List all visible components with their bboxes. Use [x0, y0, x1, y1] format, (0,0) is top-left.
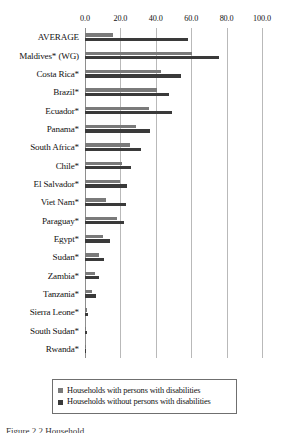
- x-axis-tick-3: 60.0: [184, 14, 198, 23]
- y-axis-label-14: Tanzania*: [43, 289, 79, 299]
- bar-with-disabilities: [85, 33, 113, 36]
- y-axis-label-10: Paraguay*: [42, 216, 79, 226]
- y-axis-label-11: Egypt*: [54, 234, 79, 244]
- bar-group: [85, 138, 262, 156]
- bar-without-disabilities: [85, 221, 124, 224]
- bar-without-disabilities: [85, 56, 219, 59]
- bar-without-disabilities: [85, 294, 96, 297]
- bar-group: [85, 120, 262, 138]
- figure-caption: Figure 2.2 Household...: [6, 426, 289, 433]
- bar-group: [85, 321, 262, 339]
- bar-group: [85, 101, 262, 119]
- chart-legend: Households with persons with disabilitie…: [52, 379, 237, 414]
- bar-without-disabilities: [85, 239, 110, 242]
- bar-with-disabilities: [85, 327, 86, 330]
- y-axis-label-9: Viet Nam*: [41, 197, 79, 207]
- bar-without-disabilities: [85, 349, 86, 352]
- bar-with-disabilities: [85, 143, 130, 146]
- bar-with-disabilities: [85, 308, 87, 311]
- x-axis-tick-5: 100.0: [253, 14, 271, 23]
- legend-label: Households with persons with disabilitie…: [67, 386, 200, 396]
- bar-group: [85, 193, 262, 211]
- bar-with-disabilities: [85, 272, 95, 275]
- bar-group: [85, 303, 262, 321]
- bar-without-disabilities: [85, 166, 131, 169]
- legend-swatch-icon: [58, 400, 63, 405]
- bar-with-disabilities: [85, 125, 136, 128]
- bar-with-disabilities: [85, 198, 106, 201]
- y-axis-label-3: Brazil*: [53, 87, 79, 97]
- y-axis-label-6: South Africa*: [30, 142, 79, 152]
- bar-without-disabilities: [85, 129, 150, 132]
- y-axis-label-12: Sudan*: [53, 252, 79, 262]
- bar-group: [85, 175, 262, 193]
- y-axis-label-7: Chile*: [56, 161, 79, 171]
- x-axis-tick-4: 80.0: [220, 14, 234, 23]
- bar-with-disabilities: [85, 107, 149, 110]
- bar-with-disabilities: [85, 345, 86, 348]
- bar-without-disabilities: [85, 111, 172, 114]
- legend-label: Households without persons with disabili…: [67, 397, 211, 407]
- bar-group: [85, 156, 262, 174]
- x-axis-tick-0: 0.0: [80, 14, 90, 23]
- bar-without-disabilities: [85, 148, 141, 151]
- bar-with-disabilities: [85, 52, 192, 55]
- x-axis-tick-2: 40.0: [149, 14, 163, 23]
- bar-group: [85, 28, 262, 46]
- y-axis-label-8: El Salvador*: [34, 179, 79, 189]
- figure-container: 0.020.040.060.080.0100.0 AVERAGEMaldives…: [0, 0, 289, 433]
- y-axis-label-0: AVERAGE: [38, 32, 79, 42]
- bar-group: [85, 248, 262, 266]
- bar-with-disabilities: [85, 290, 92, 293]
- bar-group: [85, 46, 262, 64]
- bar-group: [85, 65, 262, 83]
- bar-without-disabilities: [85, 313, 88, 316]
- bar-without-disabilities: [85, 93, 169, 96]
- bar-with-disabilities: [85, 162, 122, 165]
- bar-without-disabilities: [85, 276, 99, 279]
- bar-without-disabilities: [85, 184, 127, 187]
- y-axis-label-1: Maldives* (WG): [19, 51, 79, 61]
- gridline-5: [262, 28, 263, 358]
- bar-without-disabilities: [85, 203, 126, 206]
- bar-rows: [85, 28, 262, 358]
- bar-without-disabilities: [85, 74, 181, 77]
- y-axis-label-15: Sierra Leone*: [30, 307, 79, 317]
- y-axis-label-16: South Sudan*: [30, 326, 79, 336]
- bar-with-disabilities: [85, 180, 120, 183]
- plot-area: [85, 28, 262, 358]
- legend-item-0[interactable]: Households with persons with disabilitie…: [58, 386, 231, 396]
- x-axis-tick-1: 20.0: [113, 14, 127, 23]
- y-axis-label-13: Zambia*: [48, 271, 79, 281]
- x-axis-tick-labels: 0.020.040.060.080.0100.0: [85, 14, 262, 28]
- bar-with-disabilities: [85, 70, 161, 73]
- bar-without-disabilities: [85, 38, 188, 41]
- bar-with-disabilities: [85, 253, 99, 256]
- y-axis-label-17: Rwanda*: [46, 344, 79, 354]
- bar-without-disabilities: [85, 331, 87, 334]
- bar-group: [85, 340, 262, 358]
- bar-group: [85, 266, 262, 284]
- bar-group: [85, 211, 262, 229]
- bar-with-disabilities: [85, 88, 157, 91]
- bar-group: [85, 285, 262, 303]
- y-axis-label-4: Ecuador*: [45, 106, 79, 116]
- legend-item-1[interactable]: Households without persons with disabili…: [58, 397, 231, 407]
- bar-without-disabilities: [85, 258, 104, 261]
- bar-with-disabilities: [85, 235, 103, 238]
- y-axis-label-5: Panama*: [47, 124, 79, 134]
- bar-group: [85, 83, 262, 101]
- y-axis-category-labels: AVERAGEMaldives* (WG)Costa Rica*Brazil*E…: [0, 28, 82, 358]
- legend-swatch-icon: [58, 388, 63, 393]
- y-axis-label-2: Costa Rica*: [36, 69, 79, 79]
- bar-group: [85, 230, 262, 248]
- bar-with-disabilities: [85, 217, 117, 220]
